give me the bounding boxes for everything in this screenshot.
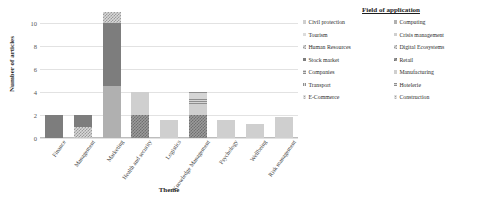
legend-column-left: Civil protectionTourismHuman ResourcesSt… bbox=[303, 19, 388, 100]
x-axis-title: Theme bbox=[40, 186, 298, 194]
legend-swatch-icon bbox=[394, 95, 397, 98]
y-axis-title: Number of articles bbox=[8, 16, 16, 112]
legend-swatch-icon bbox=[394, 58, 397, 61]
legend-swatch-icon bbox=[303, 95, 306, 98]
legend-item[interactable]: Tourism bbox=[303, 32, 388, 38]
x-tick-label: Logistics bbox=[164, 139, 182, 160]
legend-item[interactable]: Companies bbox=[303, 69, 388, 75]
bar-group[interactable] bbox=[160, 120, 178, 138]
y-tick-label: 4 bbox=[34, 89, 37, 96]
bar-group[interactable] bbox=[103, 12, 121, 138]
legend-item[interactable]: Retail bbox=[394, 57, 479, 63]
y-tick-label: 2 bbox=[34, 112, 37, 119]
bar-segment[interactable] bbox=[131, 92, 149, 115]
legend-item-label: Retail bbox=[399, 57, 413, 63]
legend: Field of application Civil protectionTou… bbox=[303, 6, 479, 100]
legend-item-label: Civil protection bbox=[308, 19, 345, 25]
legend-item[interactable]: E-Commerce bbox=[303, 94, 388, 100]
bar-segment[interactable] bbox=[189, 104, 207, 115]
legend-swatch-icon bbox=[394, 33, 397, 36]
legend-swatch-icon bbox=[303, 33, 306, 36]
legend-swatch-icon bbox=[394, 70, 397, 73]
legend-item[interactable]: Digital Ecosystems bbox=[394, 44, 479, 50]
x-tick-label: Wellbeing bbox=[249, 139, 268, 163]
legend-item-label: Construction bbox=[399, 94, 429, 100]
legend-item-label: Companies bbox=[308, 69, 334, 75]
legend-item-label: Crisis management bbox=[399, 32, 444, 38]
x-tick-label: Marketing bbox=[105, 139, 124, 163]
bar-group[interactable] bbox=[189, 92, 207, 138]
bar-segment[interactable] bbox=[103, 86, 121, 138]
x-tick-labels: FinanceManagementMarketingHealth and sec… bbox=[40, 139, 298, 187]
x-tick-label: Health and security bbox=[122, 139, 154, 181]
bar-segment[interactable] bbox=[74, 115, 92, 126]
stacked-bar-chart: Number of articles 0246810 FinanceManage… bbox=[0, 0, 482, 203]
legend-swatch-icon bbox=[394, 83, 397, 86]
legend-swatch-icon bbox=[303, 58, 306, 61]
legend-swatch-icon bbox=[394, 45, 397, 48]
x-tick-label: Finance bbox=[51, 139, 67, 158]
bar-segment[interactable] bbox=[275, 117, 293, 138]
legend-item[interactable]: Hotelerie bbox=[394, 82, 479, 88]
legend-item[interactable]: Crisis management bbox=[394, 32, 479, 38]
legend-item[interactable]: Computing bbox=[394, 19, 479, 25]
bar-group[interactable] bbox=[275, 117, 293, 138]
x-tick-label: Risk management bbox=[267, 139, 297, 178]
bar-segment[interactable] bbox=[45, 115, 63, 138]
legend-item-label: Digital Ecosystems bbox=[399, 44, 444, 50]
legend-swatch-icon bbox=[303, 70, 306, 73]
bar-group[interactable] bbox=[246, 124, 264, 138]
bars-layer bbox=[40, 12, 298, 138]
legend-column-right: ComputingCrisis managementDigital Ecosys… bbox=[394, 19, 479, 100]
legend-swatch-icon bbox=[394, 20, 397, 23]
plot-area: 0246810 bbox=[40, 12, 298, 138]
legend-swatch-icon bbox=[303, 83, 306, 86]
bar-group[interactable] bbox=[131, 92, 149, 138]
y-tick-label: 0 bbox=[34, 135, 37, 142]
legend-item[interactable]: Construction bbox=[394, 94, 479, 100]
y-tick-label: 8 bbox=[34, 43, 37, 50]
bar-segment[interactable] bbox=[74, 127, 92, 138]
legend-item-label: Manufacturing bbox=[399, 69, 433, 75]
legend-swatch-icon bbox=[303, 20, 306, 23]
legend-swatch-icon bbox=[303, 45, 306, 48]
legend-title: Field of application bbox=[303, 6, 479, 14]
bar-segment[interactable] bbox=[246, 124, 264, 138]
legend-item[interactable]: Transport bbox=[303, 82, 388, 88]
bar-segment[interactable] bbox=[103, 12, 121, 23]
bar-segment[interactable] bbox=[131, 115, 149, 138]
y-tick-label: 6 bbox=[34, 66, 37, 73]
legend-item-label: Computing bbox=[399, 19, 425, 25]
bar-segment[interactable] bbox=[103, 23, 121, 86]
legend-item[interactable]: Human Resources bbox=[303, 44, 388, 50]
legend-item-label: E-Commerce bbox=[308, 94, 339, 100]
legend-item-label: Stock market bbox=[308, 57, 339, 63]
bar-group[interactable] bbox=[74, 115, 92, 138]
legend-item-label: Hotelerie bbox=[399, 82, 421, 88]
legend-item[interactable]: Manufacturing bbox=[394, 69, 479, 75]
y-tick-label: 10 bbox=[31, 20, 38, 27]
bar-segment[interactable] bbox=[217, 120, 235, 138]
x-tick-label: Psychology bbox=[218, 139, 239, 165]
legend-item[interactable]: Stock market bbox=[303, 57, 388, 63]
legend-item-label: Human Resources bbox=[308, 44, 350, 50]
bar-group[interactable] bbox=[217, 120, 235, 138]
legend-item-label: Transport bbox=[308, 82, 330, 88]
legend-item[interactable]: Civil protection bbox=[303, 19, 388, 25]
bar-group[interactable] bbox=[45, 115, 63, 138]
bar-segment[interactable] bbox=[189, 115, 207, 138]
bar-segment[interactable] bbox=[189, 92, 207, 103]
bar-segment[interactable] bbox=[160, 120, 178, 138]
legend-item-label: Tourism bbox=[308, 32, 327, 38]
x-tick-label: Management bbox=[73, 139, 96, 168]
